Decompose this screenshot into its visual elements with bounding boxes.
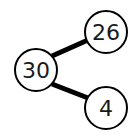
whole-node: 30	[15, 49, 57, 91]
part-node-bottom: 4	[85, 87, 127, 129]
part-bottom-label: 4	[99, 96, 113, 121]
part-node-top: 26	[85, 11, 127, 53]
number-bond-diagram: 30 26 4	[0, 0, 139, 138]
bond-line-bottom	[52, 84, 88, 98]
part-top-label: 26	[92, 20, 120, 45]
bond-line-top	[52, 40, 88, 56]
whole-label: 30	[22, 58, 50, 83]
